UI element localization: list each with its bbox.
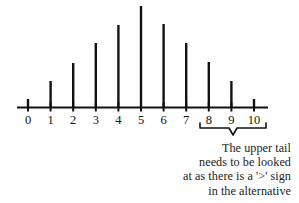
annotation-line-2: needs to be looked bbox=[91, 155, 291, 169]
probability-distribution-figure: 012345678910 The upper tail needs to be … bbox=[0, 0, 299, 203]
tick-label-0: 0 bbox=[16, 114, 40, 127]
tick-label-4: 4 bbox=[106, 114, 130, 127]
annotation-line-1: The upper tail bbox=[91, 141, 291, 155]
annotation-line-3: at as there is a '>' sign bbox=[91, 169, 291, 183]
tick-label-3: 3 bbox=[84, 114, 108, 127]
tick-label-8: 8 bbox=[197, 114, 221, 127]
tick-label-7: 7 bbox=[174, 114, 198, 127]
tick-label-2: 2 bbox=[61, 114, 85, 127]
upper-tail-annotation: The upper tail needs to be looked at as … bbox=[91, 141, 291, 198]
tick-label-6: 6 bbox=[152, 114, 176, 127]
tick-label-1: 1 bbox=[39, 114, 63, 127]
tick-label-5: 5 bbox=[129, 114, 153, 127]
annotation-line-4: in the alternative bbox=[91, 184, 291, 198]
tick-label-9: 9 bbox=[219, 114, 243, 127]
tick-label-10: 10 bbox=[242, 114, 266, 127]
bars-group bbox=[28, 6, 254, 108]
